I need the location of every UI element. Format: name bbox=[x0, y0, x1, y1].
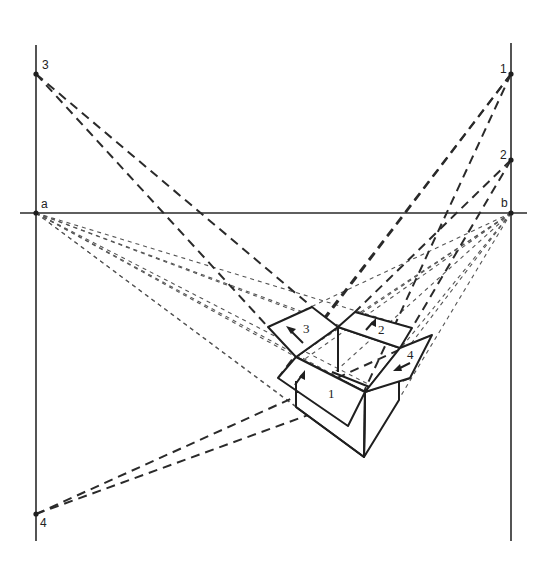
vp-1-label: 1 bbox=[500, 62, 507, 76]
vp-2-label: 2 bbox=[500, 148, 507, 162]
vp-4-label: 4 bbox=[40, 516, 47, 530]
vp-3-label: 3 bbox=[42, 58, 49, 72]
vp-2-dot bbox=[508, 157, 513, 162]
vp-a-label: a bbox=[41, 197, 48, 211]
flap-2 bbox=[338, 312, 412, 348]
vp-3-dot bbox=[33, 71, 38, 76]
construction-lines-3 bbox=[36, 74, 312, 327]
flap-label-3: 3 bbox=[303, 321, 310, 336]
open-box: 3 2 4 1 bbox=[268, 307, 432, 457]
flap-label-4: 4 bbox=[407, 347, 414, 362]
vp-4-dot bbox=[33, 511, 38, 516]
vp-1-dot bbox=[508, 71, 513, 76]
vp-b-label: b bbox=[501, 196, 508, 210]
flap-label-2: 2 bbox=[378, 322, 385, 337]
vp-a-dot bbox=[33, 210, 38, 215]
perspective-diagram: 3 2 4 1 3 a 4 1 2 b bbox=[0, 0, 549, 583]
flap-label-1: 1 bbox=[328, 386, 335, 401]
vp-b-dot bbox=[508, 210, 513, 215]
